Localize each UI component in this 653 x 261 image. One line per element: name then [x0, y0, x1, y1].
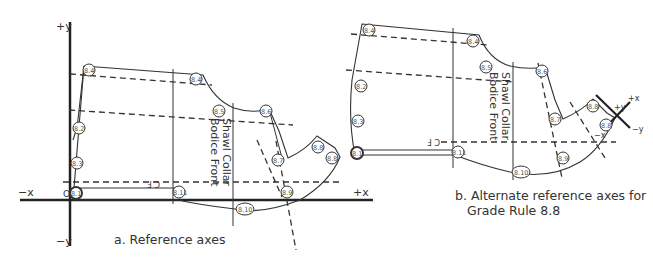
svg-text:8.9: 8.9 — [282, 189, 292, 197]
point-8-10: 8.10 — [236, 203, 254, 215]
svg-text:8.5: 8.5 — [481, 64, 491, 72]
diagram-a-points: 8.1 8.2 8.3 8.4 8.4 8.5 8.6 8.7 8.8 8.8 … — [70, 64, 338, 215]
svg-text:8.4: 8.4 — [191, 76, 201, 84]
svg-text:8.11: 8.11 — [173, 189, 187, 197]
svg-text:8.8: 8.8 — [601, 122, 611, 130]
point-8-3: 8.3 — [71, 157, 83, 169]
point-8-9: 8.9 — [281, 186, 293, 198]
svg-text:8.9: 8.9 — [558, 155, 568, 163]
caption-a: a. Reference axes — [114, 232, 225, 247]
diagram-a: C F — [20, 22, 373, 250]
minus-y-label: −y — [56, 235, 72, 248]
svg-text:8.3: 8.3 — [353, 118, 363, 126]
cf-label: C F — [147, 179, 160, 188]
point-8-8a: 8.8 — [312, 141, 324, 153]
alt-plus-y-label: +y — [614, 103, 626, 112]
svg-text:8.8: 8.8 — [588, 103, 598, 111]
point-8-4b: 8.4 — [190, 73, 202, 85]
svg-text:8.10: 8.10 — [238, 206, 252, 214]
point-8-4-b: 8.4 — [363, 24, 375, 36]
alt-minus-y-label: −y — [632, 125, 644, 134]
svg-text:8.2: 8.2 — [356, 83, 366, 91]
svg-text:8.4: 8.4 — [468, 38, 478, 46]
point-8-5: 8.5 — [213, 105, 225, 117]
svg-text:8.7: 8.7 — [550, 116, 560, 124]
origin-label: O — [63, 189, 70, 199]
svg-text:8.7: 8.7 — [273, 157, 283, 165]
plus-y-label: +y — [56, 20, 72, 33]
svg-text:8.6: 8.6 — [261, 108, 271, 116]
point-8-7: 8.7 — [272, 154, 284, 166]
point-8-2: 8.2 — [73, 122, 85, 134]
point-8-4b-b: 8.4 — [467, 35, 479, 47]
point-8-8b: 8.8 — [326, 152, 338, 164]
point-8-6: 8.6 — [260, 105, 272, 117]
svg-text:8.11: 8.11 — [452, 149, 466, 157]
svg-text:8.2: 8.2 — [74, 125, 84, 133]
diagram-a-piece-label: Shawl Collar Bodice Front — [208, 118, 233, 187]
point-8-1-b: 8.1 — [351, 147, 363, 159]
point-8-9-b: 8.9 — [557, 152, 569, 164]
svg-text:8.1: 8.1 — [352, 150, 362, 158]
svg-text:Bodice Front: Bodice Front — [208, 118, 221, 187]
point-8-6-b: 8.6 — [536, 65, 548, 77]
alt-plus-x-label: +x — [628, 94, 640, 103]
svg-text:8.4: 8.4 — [84, 67, 94, 75]
point-8-11-b: 8.11 — [452, 146, 466, 158]
svg-text:8.10: 8.10 — [514, 169, 528, 177]
grading-diagram: C F 8.1 8.2 8.3 8.4 8.4 8.5 8.6 8.7 8.8 … — [0, 0, 653, 261]
svg-text:8.4: 8.4 — [364, 27, 374, 35]
cf-label-b: C F — [427, 137, 440, 146]
svg-text:8.6: 8.6 — [537, 68, 547, 76]
minus-x-label: −x — [18, 186, 34, 199]
caption-b-line1: b. Alternate reference axes for — [455, 188, 646, 203]
point-8-3-b: 8.3 — [352, 115, 364, 127]
point-8-7-b: 8.7 — [549, 113, 561, 125]
svg-text:8.3: 8.3 — [72, 160, 82, 168]
svg-text:8.8: 8.8 — [313, 144, 323, 152]
point-8-2-b: 8.2 — [355, 80, 367, 92]
point-8-4: 8.4 — [83, 64, 95, 76]
point-8-8b-b: 8.8 — [600, 119, 612, 131]
svg-text:Bodice Front: Bodice Front — [487, 72, 500, 141]
point-8-1: 8.1 — [70, 187, 82, 199]
point-8-8a-b: 8.8 — [587, 100, 599, 112]
svg-text:8.8: 8.8 — [327, 155, 337, 163]
svg-text:8.1: 8.1 — [71, 190, 81, 198]
point-8-10-b: 8.10 — [512, 166, 530, 178]
point-8-11: 8.11 — [173, 186, 187, 198]
diagram-b-piece-label: Shawl Collar Bodice Front — [487, 72, 512, 141]
caption-b-line2: Grade Rule 8.8 — [467, 203, 560, 218]
plus-x-label: +x — [353, 186, 369, 199]
alt-minus-x-label: −x — [594, 131, 606, 140]
svg-text:8.5: 8.5 — [214, 108, 224, 116]
